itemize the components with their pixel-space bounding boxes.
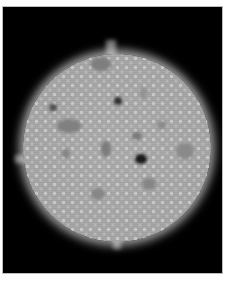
spot-mid-right [132, 132, 142, 140]
spot-left-mid [62, 149, 70, 158]
large-dark-spot [135, 154, 147, 164]
spot-right-upper [157, 121, 166, 129]
patch-center [101, 141, 111, 157]
spot-upper-right [140, 87, 147, 99]
patch-lower-right [142, 178, 156, 190]
patch-top [91, 57, 111, 71]
dark-spot-left [49, 104, 57, 111]
patch-right [176, 143, 194, 159]
image-frame [2, 6, 223, 274]
dark-spot-top [114, 97, 122, 105]
patch-center-left [57, 119, 81, 133]
patch-bottom [91, 188, 105, 200]
